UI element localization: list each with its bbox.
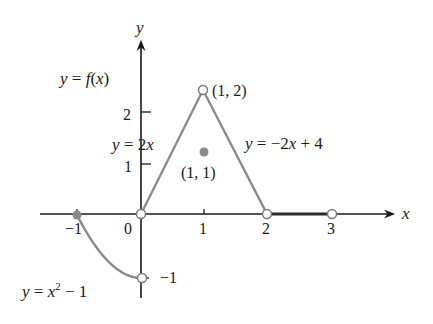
x-tick-label-3: 3 [327, 220, 335, 237]
open-point-0-neg1 [138, 274, 147, 283]
open-point-0-0 [137, 210, 146, 219]
isolated-point-label: (1, 1) [181, 164, 216, 182]
y-tick-label-2: 2 [123, 106, 131, 123]
x-tick-label-2: 2 [262, 220, 270, 237]
x-tick-label-1: 1 [199, 220, 207, 237]
closed-point-1-1 [200, 148, 209, 157]
open-point-3-0 [328, 210, 337, 219]
peak-point-label: (1, 2) [212, 82, 247, 100]
x-tick-label-0: 0 [124, 220, 132, 237]
x-axis-label: x [401, 204, 410, 223]
eq-neg2x-plus-4-label: y = −2x + 4 [243, 134, 323, 153]
y-axis-label: y [134, 18, 144, 37]
x-tick-label-neg1: −1 [65, 220, 82, 237]
eq-parabola-label: y = x2 − 1 [20, 280, 87, 301]
title-label: y = f(x) [58, 69, 109, 88]
y-tick-label-neg1: −1 [160, 269, 177, 286]
eq-y-2x-label: y = 2x [110, 135, 154, 154]
open-point-1-2 [199, 86, 208, 95]
y-tick-label-1: 1 [124, 158, 132, 175]
function-graph: x y −1 0 1 2 3 2 1 −1 y = f(x) (1, 2) y … [0, 0, 433, 324]
closed-point-neg1-0 [73, 211, 82, 220]
open-point-2-0 [263, 210, 272, 219]
